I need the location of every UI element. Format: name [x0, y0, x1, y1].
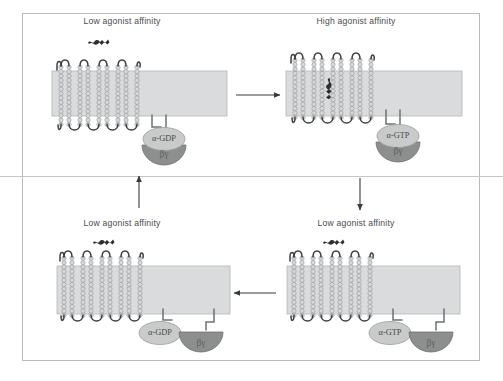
panel-divider — [0, 176, 503, 177]
figure-frame — [22, 13, 480, 361]
panel-label-top-right: High agonist affinity — [276, 16, 436, 26]
panel-label-top-left: Low agonist affinity — [42, 16, 202, 26]
panel-label-bottom-left: Low agonist affinity — [42, 218, 202, 228]
panel-label-bottom-right: Low agonist affinity — [276, 218, 436, 228]
gpcr-cycle-figure: Low agonist affinity High agonist affini… — [0, 0, 503, 381]
